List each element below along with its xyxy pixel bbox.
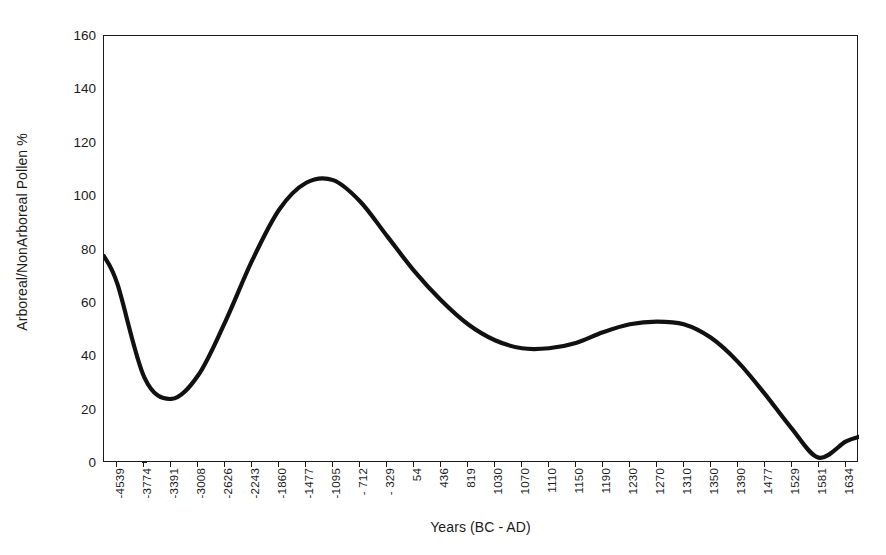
x-tick-label: 1070 <box>519 468 531 494</box>
x-tick-mark <box>170 462 171 467</box>
x-tick-label: 1634 <box>843 468 855 494</box>
x-tick-label: 1390 <box>735 468 747 494</box>
x-tick-mark <box>764 462 765 467</box>
x-tick-mark <box>467 462 468 467</box>
x-tick-mark <box>683 462 684 467</box>
x-tick-label: 1581 <box>816 468 828 494</box>
x-tick-mark <box>332 462 333 467</box>
x-tick-mark <box>737 462 738 467</box>
y-tick-label: 40 <box>50 348 96 363</box>
x-tick-mark <box>251 462 252 467</box>
x-tick-mark <box>116 462 117 467</box>
x-tick-label: 819 <box>465 468 477 488</box>
x-tick-mark <box>629 462 630 467</box>
x-tick-label: - 712 <box>357 468 369 495</box>
chart-figure: Arboreal/NonArboreal Pollen % 0204060801… <box>0 0 886 555</box>
x-tick-mark <box>278 462 279 467</box>
x-tick-mark <box>845 462 846 467</box>
x-tick-mark <box>440 462 441 467</box>
x-tick-mark <box>602 462 603 467</box>
x-tick-label: 1529 <box>789 468 801 494</box>
x-tick-label: 436 <box>438 468 450 488</box>
x-axis-title: Years (BC - AD) <box>103 519 858 535</box>
y-tick-label: 60 <box>50 294 96 309</box>
x-tick-label: -3774 <box>141 468 153 498</box>
x-tick-mark <box>656 462 657 467</box>
x-tick-mark <box>413 462 414 467</box>
x-tick-mark <box>818 462 819 467</box>
plot-area <box>103 35 858 462</box>
y-tick-label: 140 <box>50 81 96 96</box>
x-tick-mark <box>143 462 144 467</box>
y-axis-ticks: 020406080100120140160 <box>48 0 96 555</box>
x-tick-label: 1190 <box>600 468 612 494</box>
x-tick-label: -1095 <box>330 468 342 498</box>
x-tick-mark <box>548 462 549 467</box>
x-tick-mark <box>197 462 198 467</box>
x-axis-ticklabels: -4539-3774-3391-3008-2626-2243-1860-1477… <box>103 468 858 516</box>
x-tick-label: 1270 <box>654 468 666 494</box>
x-tick-label: -3391 <box>168 468 180 498</box>
x-tick-label: -2243 <box>249 468 261 498</box>
x-tick-mark <box>305 462 306 467</box>
y-axis-title: Arboreal/NonArboreal Pollen % <box>14 2 40 462</box>
x-tick-label: 1230 <box>627 468 639 494</box>
x-tick-mark <box>359 462 360 467</box>
x-tick-label: 1030 <box>492 468 504 494</box>
y-tick-label: 0 <box>50 455 96 470</box>
y-tick-label: 20 <box>50 401 96 416</box>
x-tick-label: 1150 <box>573 468 585 494</box>
y-tick-label: 160 <box>50 28 96 43</box>
x-tick-label: 1477 <box>762 468 774 494</box>
x-tick-mark <box>791 462 792 467</box>
x-tick-mark <box>521 462 522 467</box>
x-tick-label: 1310 <box>681 468 693 494</box>
data-line-series <box>104 36 859 463</box>
x-tick-mark <box>494 462 495 467</box>
x-tick-mark <box>224 462 225 467</box>
x-tick-label: -1860 <box>276 468 288 498</box>
x-tick-label: -1477 <box>303 468 315 498</box>
x-tick-label: - 329 <box>384 468 396 495</box>
x-tick-mark <box>386 462 387 467</box>
x-tick-label: -2626 <box>222 468 234 498</box>
x-tick-label: -4539 <box>114 468 126 498</box>
x-tick-mark <box>710 462 711 467</box>
x-tick-label: 1350 <box>708 468 720 494</box>
y-tick-label: 120 <box>50 134 96 149</box>
y-tick-label: 100 <box>50 188 96 203</box>
x-tick-label: -3008 <box>195 468 207 498</box>
y-tick-label: 80 <box>50 241 96 256</box>
x-tick-mark <box>575 462 576 467</box>
x-tick-label: 54 <box>411 468 423 481</box>
x-tick-label: 1110 <box>546 468 558 493</box>
